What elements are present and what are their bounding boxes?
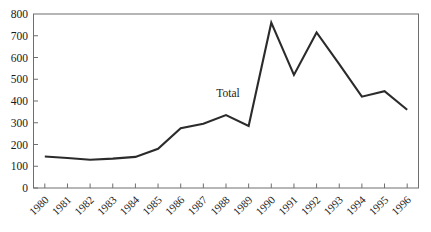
y-axis-tick-label: 200 <box>11 139 29 151</box>
chart-canvas: 0100200300400500600700800 19801981198219… <box>0 0 431 232</box>
y-axis-tick-label: 800 <box>11 8 29 20</box>
y-axis-tick-labels: 0100200300400500600700800 <box>11 8 29 194</box>
y-axis-tick-label: 400 <box>11 95 29 107</box>
y-axis-tick-label: 600 <box>11 52 29 64</box>
chart-annotations: Total <box>216 87 239 99</box>
y-axis-tick-label: 0 <box>22 182 28 194</box>
series-annotation-label: Total <box>216 87 239 99</box>
y-axis-tick-label: 300 <box>11 117 29 129</box>
line-chart: 0100200300400500600700800 19801981198219… <box>0 0 431 232</box>
y-axis-tick-label: 500 <box>11 73 29 85</box>
y-axis-tick-label: 700 <box>11 30 29 42</box>
y-axis-tick-label: 100 <box>11 160 29 172</box>
